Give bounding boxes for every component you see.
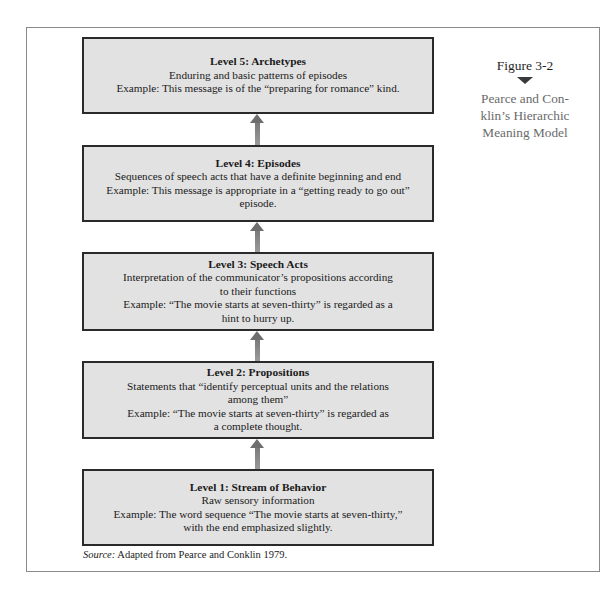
level-4-description: Sequences of speech acts that have a def… xyxy=(115,170,401,183)
level-3-description-line-1: Interpretation of the communicator’s pro… xyxy=(123,271,393,284)
level-2-description-line-2: among them” xyxy=(228,393,289,406)
level-4-example: Example: This message is appropriate in … xyxy=(104,184,412,211)
level-5-title: Level 5: Archetypes xyxy=(210,55,306,68)
figure-caption-line-2: klin’s Hierarchic xyxy=(470,107,580,124)
level-3-example-line-2: hint to hurry up. xyxy=(222,312,295,325)
level-1-description: Raw sensory information xyxy=(201,494,314,507)
arrow-up-icon xyxy=(250,331,264,361)
figure-label: Figure 3-2 Pearce and Con- klin’s Hierar… xyxy=(470,58,580,141)
level-3-description-line-2: to their functions xyxy=(220,285,296,298)
level-1-example-line-1: Example: The word sequence “The movie st… xyxy=(114,508,403,521)
figure-caption-line-1: Pearce and Con- xyxy=(470,90,580,107)
source-text: Adapted from Pearce and Conklin 1979. xyxy=(115,549,287,560)
level-2-box: Level 2: Propositions Statements that “i… xyxy=(82,361,434,439)
level-1-title: Level 1: Stream of Behavior xyxy=(190,481,326,494)
arrow-up-icon xyxy=(250,222,264,252)
arrow-up-icon xyxy=(250,439,264,470)
level-5-example: Example: This message is of the “prepari… xyxy=(116,82,399,95)
level-5-description: Enduring and basic patterns of episodes xyxy=(169,69,347,82)
source-label: Source: xyxy=(83,549,115,560)
level-3-example-line-1: Example: “The movie starts at seven-thir… xyxy=(123,298,392,311)
triangle-down-icon xyxy=(517,77,533,84)
figure-caption-line-3: Meaning Model xyxy=(470,124,580,141)
level-5-box: Level 5: Archetypes Enduring and basic p… xyxy=(82,37,434,114)
level-3-box: Level 3: Speech Acts Interpretation of t… xyxy=(82,252,434,331)
source-note: Source: Adapted from Pearce and Conklin … xyxy=(83,549,287,560)
arrow-up-icon xyxy=(250,114,264,145)
level-1-example-line-2: with the end emphasized slightly. xyxy=(183,521,332,534)
level-2-description-line-1: Statements that “identify perceptual uni… xyxy=(127,380,389,393)
figure-caption: Pearce and Con- klin’s Hierarchic Meanin… xyxy=(470,90,580,141)
figure-number: Figure 3-2 xyxy=(470,58,580,74)
level-2-example-line-2: a complete thought. xyxy=(214,420,303,433)
level-4-box: Level 4: Episodes Sequences of speech ac… xyxy=(82,145,434,222)
level-2-title: Level 2: Propositions xyxy=(207,366,309,379)
level-3-title: Level 3: Speech Acts xyxy=(208,258,308,271)
level-2-example-line-1: Example: “The movie starts at seven-thir… xyxy=(127,407,389,420)
level-4-title: Level 4: Episodes xyxy=(216,157,301,170)
level-1-box: Level 1: Stream of Behavior Raw sensory … xyxy=(82,469,434,546)
